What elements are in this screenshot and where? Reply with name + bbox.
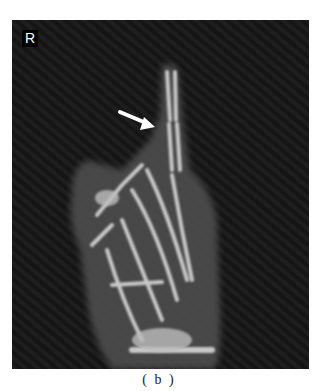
xray-hand-illustration bbox=[12, 20, 309, 369]
side-marker-label: R bbox=[22, 30, 38, 47]
xray-image: R bbox=[12, 20, 309, 369]
figure-caption: ( b ) bbox=[0, 372, 318, 388]
